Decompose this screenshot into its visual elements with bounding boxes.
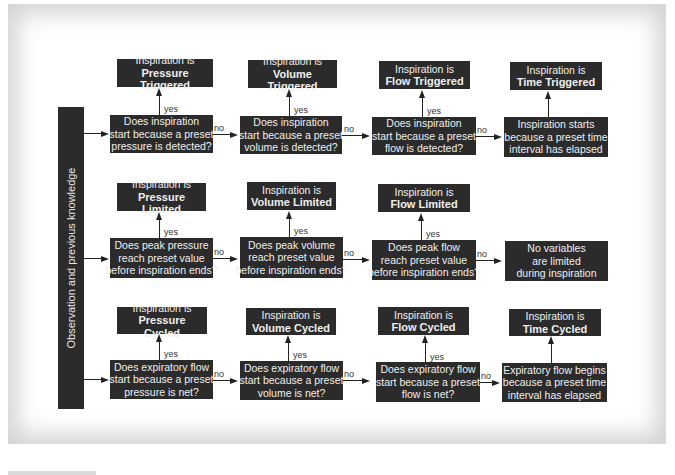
question-line: reach preset value: [118, 252, 204, 265]
question-line: before inspiration ends?: [368, 266, 480, 279]
question-line: Does expiratory flow: [114, 361, 209, 374]
question-line: Does expiratory flow: [244, 362, 339, 375]
arrowhead-up-icon: [156, 88, 162, 96]
result-line: Inspiration is: [527, 64, 586, 77]
arrowhead-up-icon: [285, 335, 291, 343]
question-line: interval has elapsed: [509, 143, 602, 156]
question-line: reach preset value: [381, 254, 467, 267]
question-line: start because a preset: [240, 374, 344, 387]
no-label: no: [344, 124, 354, 134]
yes-label: yes: [164, 104, 178, 114]
arrowhead-up-icon: [548, 336, 554, 344]
question-flow-trigger: Does inspiration start because a preset …: [372, 117, 476, 155]
result-line: Inspiration is: [136, 54, 195, 67]
yes-label: yes: [294, 105, 308, 115]
observation-sidebar: Observation and previous knowledge: [58, 107, 84, 409]
arrowhead-up-icon: [418, 213, 424, 221]
yes-label: yes: [164, 227, 178, 237]
question-line: Does inspiration: [124, 115, 199, 128]
arrowhead-up-icon: [286, 211, 292, 219]
result-flow-cycled: Inspiration is Flow Cycled: [378, 307, 469, 335]
arrowhead-right-icon: [101, 131, 109, 137]
question-pressure-trigger: Does inspiration start because a preset …: [110, 115, 213, 153]
connector: [343, 380, 364, 381]
question-line: flow is detected?: [385, 142, 463, 155]
result-line: Inspiration is: [394, 309, 453, 322]
yes-label: yes: [427, 106, 441, 116]
connector: [551, 342, 552, 363]
no-label: no: [477, 125, 487, 135]
result-line: Inspiration is: [263, 55, 322, 68]
arrowhead-right-icon: [362, 378, 370, 384]
result-line: Inspiration is: [395, 186, 454, 199]
connector: [159, 340, 160, 360]
arrowhead-right-icon: [101, 377, 109, 383]
result-line: Inspiration is: [395, 63, 454, 76]
yes-label: yes: [164, 349, 178, 359]
question-line: during inspiration: [517, 267, 597, 280]
question-flow-cycle: Does expiratory flow start because a pre…: [376, 362, 480, 402]
result-time-triggered: Inspiration is Time Triggered: [510, 62, 602, 90]
question-line: start because a preset: [110, 128, 214, 141]
result-pressure-triggered: Inspiration is Pressure Triggered: [117, 59, 213, 87]
result-mode: Flow Triggered: [385, 75, 463, 88]
no-label: no: [344, 248, 354, 258]
result-time-cycled: Inspiration is Time Cycled: [509, 309, 601, 336]
question-line: pressure is detected?: [111, 140, 211, 153]
result-line: Inspiration is: [262, 309, 321, 322]
connector: [476, 136, 496, 137]
no-label: no: [344, 369, 354, 379]
connector: [159, 218, 160, 238]
no-label: no: [481, 371, 491, 381]
question-volume-trigger: Does inspiration start because a preset …: [240, 116, 342, 154]
arrowhead-right-icon: [101, 256, 109, 262]
sidebar-label: Observation and previous knowledge: [65, 167, 77, 348]
question-line: start because a preset: [110, 373, 214, 386]
connector: [343, 259, 364, 260]
arrowhead-up-icon: [286, 89, 292, 97]
result-flow-limited: Inspiration is Flow Limited: [378, 184, 470, 212]
question-line: volume is net?: [258, 387, 326, 400]
result-line: Inspiration is: [262, 184, 321, 197]
connector: [84, 133, 102, 134]
question-line: start because a preset: [239, 129, 343, 142]
result-mode: Volume Limited: [251, 196, 332, 209]
arrowhead-up-icon: [419, 90, 425, 98]
connector: [421, 219, 422, 240]
question-line: Does peak volume: [248, 239, 335, 252]
question-line: flow is net?: [402, 388, 455, 401]
question-line: before inspiration ends?: [105, 264, 217, 277]
question-line: volume is detected?: [244, 141, 337, 154]
result-flow-triggered: Inspiration is Flow Triggered: [379, 61, 470, 89]
connector: [159, 94, 160, 115]
question-line: are limited: [532, 255, 580, 268]
question-flow-limit: Does peak flow reach preset value before…: [372, 240, 476, 280]
connector: [289, 95, 290, 116]
arrowhead-right-icon: [230, 378, 238, 384]
result-volume-limited: Inspiration is Volume Limited: [247, 182, 336, 210]
arrowhead-right-icon: [362, 133, 370, 139]
connector: [288, 341, 289, 361]
arrowhead-right-icon: [492, 380, 500, 386]
connector: [289, 217, 290, 237]
question-pressure-limit: Does peak pressure reach preset value be…: [110, 238, 213, 278]
connector: [84, 379, 102, 380]
question-line: No variables: [527, 242, 585, 255]
result-mode: Pressure Cycled: [120, 314, 204, 339]
connector: [476, 260, 496, 261]
arrowhead-right-icon: [230, 256, 238, 262]
result-mode: Flow Cycled: [391, 321, 455, 334]
statement-time-cycle: Expiratory flow begins because a preset …: [502, 363, 607, 402]
question-line: Does inspiration: [386, 117, 461, 130]
result-mode: Volume Cycled: [252, 322, 330, 335]
connector: [342, 135, 364, 136]
yes-label: yes: [293, 350, 307, 360]
connector: [84, 258, 102, 259]
arrowhead-right-icon: [494, 134, 502, 140]
result-line: Inspiration is: [133, 302, 192, 315]
question-line: Expiratory flow begins: [503, 364, 606, 377]
question-volume-cycle: Does expiratory flow start because a pre…: [240, 361, 343, 400]
question-line: pressure is net?: [124, 386, 199, 399]
arrowhead-up-icon: [422, 335, 428, 343]
question-line: Does expiratory flow: [380, 363, 475, 376]
